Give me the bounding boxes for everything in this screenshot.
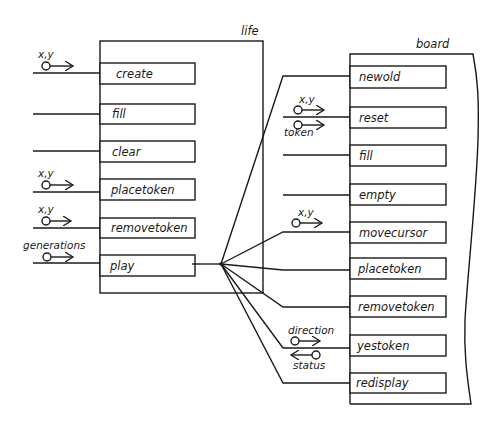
- operation-label: removetoken: [111, 221, 188, 235]
- param-label: token: [284, 126, 314, 138]
- life-op-clear[interactable]: clear: [33, 141, 195, 162]
- param-label: direction: [288, 324, 334, 336]
- module-structure-diagram: life x,y create fill clear: [0, 0, 500, 430]
- life-op-fill[interactable]: fill: [33, 104, 195, 124]
- operation-label: placetoken: [357, 262, 422, 276]
- board-op-removetoken[interactable]: removetoken: [350, 296, 446, 317]
- board-op-empty[interactable]: empty: [283, 184, 446, 205]
- param-label: x,y: [298, 93, 316, 105]
- data-in-arrow-icon: [291, 337, 320, 345]
- operation-label: fill: [112, 107, 127, 121]
- operation-label: reset: [359, 111, 389, 125]
- data-in-arrow-icon: [42, 181, 73, 189]
- operation-label: clear: [112, 145, 142, 159]
- operation-label: yestoken: [356, 339, 409, 353]
- data-in-arrow-icon: [42, 62, 73, 70]
- param-label: x,y: [37, 167, 55, 179]
- board-op-placetoken[interactable]: placetoken: [350, 258, 446, 279]
- operation-label: newold: [359, 70, 401, 84]
- operation-label: play: [109, 259, 135, 273]
- module-life: life x,y create fill clear: [23, 24, 263, 293]
- board-op-reset[interactable]: x,y token reset: [283, 93, 446, 138]
- board-op-redisplay[interactable]: redisplay: [350, 373, 446, 393]
- param-label: x,y: [37, 48, 55, 60]
- param-label: x,y: [297, 206, 315, 218]
- param-label: x,y: [37, 203, 55, 215]
- operation-label: movecursor: [359, 226, 428, 240]
- param-label: generations: [23, 239, 86, 251]
- operation-label: empty: [359, 188, 396, 202]
- board-op-movecursor[interactable]: x,y movecursor: [292, 206, 446, 243]
- board-op-newold[interactable]: newold: [350, 66, 446, 88]
- module-board: board newold x,y token reset: [283, 37, 478, 404]
- fan-out-node: [219, 262, 223, 266]
- data-in-arrow-icon: [292, 219, 322, 227]
- operation-label: create: [116, 67, 153, 81]
- return-label: status: [293, 359, 326, 371]
- operation-label: redisplay: [356, 376, 409, 390]
- board-op-fill[interactable]: fill: [283, 145, 446, 166]
- module-title-board: board: [416, 37, 450, 51]
- module-title-life: life: [241, 24, 259, 38]
- data-in-arrow-icon: [43, 253, 73, 261]
- operation-label: fill: [359, 149, 374, 163]
- operation-label: placetoken: [110, 183, 175, 197]
- data-in-arrow-icon: [294, 106, 324, 114]
- operation-label: removetoken: [358, 300, 435, 314]
- data-in-arrow-icon: [42, 217, 71, 225]
- data-out-arrow-icon: [291, 351, 320, 359]
